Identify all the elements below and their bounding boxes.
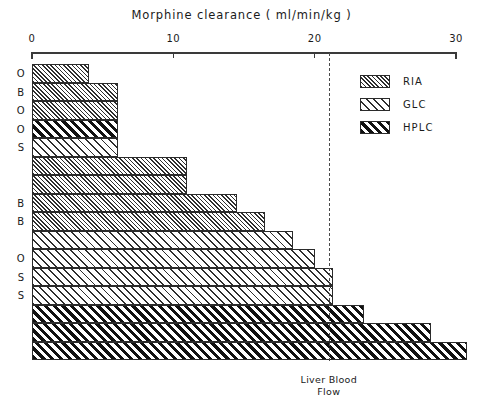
bar-ria-6 [32,175,187,194]
liver-blood-flow-label-line1: Liver Blood [301,374,357,386]
chart-legend: RIAGLCHPLC [360,74,434,143]
bar-row [32,194,456,213]
x-tick-0 [31,52,32,59]
bar-row [32,323,456,342]
row-label-2: O [14,105,28,116]
row-label-8: B [14,216,28,227]
row-label-12: S [14,290,28,301]
bar-ria-8 [32,212,265,231]
bar-glc-10 [32,249,315,268]
row-label-10: O [14,253,28,264]
legend-label-glc: GLC [403,99,427,110]
bar-glc-4 [32,138,118,157]
x-tick-label-30: 30 [449,33,463,44]
legend-item-hplc: HPLC [360,120,434,135]
bar-hplc-3 [32,120,118,139]
x-tick-30 [455,52,456,59]
bar-row [32,212,456,231]
x-tick-label-20: 20 [308,33,322,44]
legend-label-ria: RIA [403,76,423,87]
bar-ria-2 [32,101,118,120]
bar-hplc-15 [32,342,467,361]
legend-item-glc: GLC [360,97,434,112]
x-tick-label-0: 0 [29,33,36,44]
row-label-7: B [14,197,28,208]
legend-swatch-hplc [360,121,390,134]
bar-row [32,268,456,287]
bar-row [32,175,456,194]
row-label-0: O [14,68,28,79]
legend-swatch-glc [360,98,390,111]
bar-row [32,157,456,176]
row-label-3: O [14,123,28,134]
bar-row [32,286,456,305]
row-label-1: B [14,86,28,97]
morphine-clearance-chart: Morphine clearance ( ml/min/kg ) 0102030… [0,0,483,415]
x-tick-10 [173,52,174,58]
bar-row [32,249,456,268]
bar-row [32,342,456,361]
liver-blood-flow-label: Liver BloodFlow [301,374,357,398]
bar-ria-0 [32,64,89,83]
chart-title: Morphine clearance ( ml/min/kg ) [0,8,483,22]
bar-row [32,305,456,324]
x-axis-line [32,52,456,54]
liver-blood-flow-line [329,53,330,361]
row-label-4: S [14,142,28,153]
legend-item-ria: RIA [360,74,434,89]
bar-ria-5 [32,157,187,176]
row-label-11: S [14,271,28,282]
bar-hplc-13 [32,305,364,324]
liver-blood-flow-label-line2: Flow [301,386,357,398]
bar-ria-1 [32,83,118,102]
bar-glc-9 [32,231,293,250]
bar-ria-7 [32,194,237,213]
legend-swatch-ria [360,75,390,88]
bar-row [32,231,456,250]
bar-hplc-14 [32,323,431,342]
legend-label-hplc: HPLC [403,122,434,133]
bar-glc-11 [32,268,333,287]
x-tick-20 [314,52,315,58]
bar-glc-12 [32,286,333,305]
x-tick-label-10: 10 [166,33,180,44]
